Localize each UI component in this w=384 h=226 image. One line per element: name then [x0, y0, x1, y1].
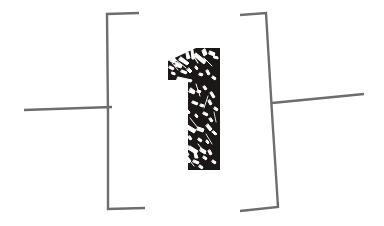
artwork-svg: 1 [ ] — [0, 0, 384, 226]
artwork-canvas: Bracketed numeral one — [0, 0, 384, 226]
